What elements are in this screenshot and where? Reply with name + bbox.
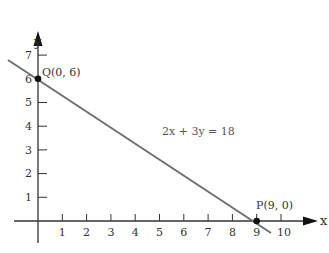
svg-text:10: 10 (277, 226, 291, 239)
point-q-marker (35, 76, 42, 83)
point-p-label: P(9, 0) (256, 199, 293, 212)
equation-label: 2x + 3y = 18 (162, 125, 235, 138)
svg-text:2: 2 (25, 167, 32, 180)
svg-text:9: 9 (253, 226, 260, 239)
svg-text:1: 1 (59, 226, 66, 239)
point-q-label: Q(0, 6) (42, 66, 81, 79)
svg-text:8: 8 (229, 226, 236, 239)
svg-text:1: 1 (25, 191, 32, 204)
svg-text:7: 7 (205, 226, 212, 239)
y-axis-label: y (33, 34, 42, 49)
line-chart: x y 1 2 3 4 5 6 7 8 9 10 1 2 (0, 0, 329, 253)
svg-text:3: 3 (107, 226, 114, 239)
x-axis-arrow-icon (303, 217, 318, 226)
svg-text:4: 4 (132, 226, 139, 239)
svg-text:4: 4 (25, 120, 32, 133)
svg-text:7: 7 (25, 49, 32, 62)
svg-text:5: 5 (156, 226, 163, 239)
svg-text:3: 3 (25, 144, 32, 157)
point-p-marker (253, 218, 260, 225)
svg-text:6: 6 (180, 226, 187, 239)
svg-text:2: 2 (83, 226, 90, 239)
x-tick-labels: 1 2 3 4 5 6 7 8 9 10 (59, 226, 291, 239)
x-axis-label: x (320, 213, 328, 228)
svg-text:5: 5 (25, 96, 32, 109)
equation-line (8, 60, 271, 233)
